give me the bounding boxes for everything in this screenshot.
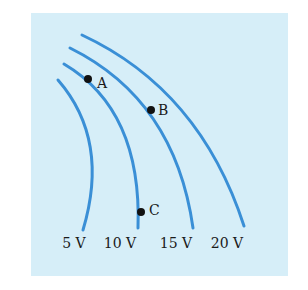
point-label-c: C (149, 202, 160, 218)
point-c-marker (137, 208, 145, 216)
label-20v: 20 V (211, 235, 244, 251)
point-b-marker (147, 106, 155, 114)
equipotential-diagram: 5 V 10 V 15 V 20 V A B C (0, 0, 308, 290)
point-a-marker (84, 75, 92, 83)
label-15v: 15 V (160, 235, 193, 251)
point-label-b: B (158, 102, 168, 118)
label-5v: 5 V (62, 235, 86, 251)
point-label-a: A (96, 75, 108, 91)
label-10v: 10 V (104, 235, 137, 251)
